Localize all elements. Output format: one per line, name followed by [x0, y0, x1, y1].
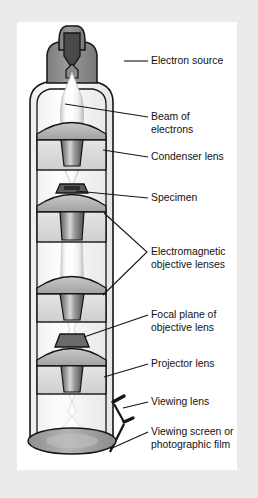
tem-diagram-figure: Electron sourceBeam ofelectronsCondenser… [0, 0, 258, 498]
focal-plane-aperture [55, 334, 89, 347]
label-line: Projector lens [151, 358, 215, 369]
tem-diagram-canvas: Electron sourceBeam ofelectronsCondenser… [0, 0, 258, 498]
label-line: Beam of [151, 111, 190, 122]
label-line: Focal plane of [151, 309, 216, 320]
objective-upper-bore [60, 212, 84, 240]
viewing-screen [28, 428, 116, 454]
label-specimen: Specimen [151, 192, 197, 203]
label-line: Viewing lens [151, 396, 209, 407]
objective-lens-upper [37, 195, 106, 243]
objective-lower-bore [60, 294, 84, 320]
label-line: Electron source [151, 55, 223, 66]
label-line: objective lenses [151, 259, 225, 270]
focal-plane [55, 334, 89, 347]
projector-lens [37, 349, 106, 395]
label-projector-lens: Projector lens [151, 358, 215, 369]
label-viewing-lens: Viewing lens [151, 396, 209, 407]
viewing-screen-illuminated-area [46, 434, 98, 449]
label-line: Specimen [151, 192, 197, 203]
condenser-lens [37, 123, 106, 171]
specimen-grid [64, 186, 80, 190]
label-line: Viewing screen or [151, 426, 234, 437]
condenser-lens-bore [61, 140, 83, 166]
label-condenser-lens: Condenser lens [151, 151, 224, 162]
label-line: objective lens [151, 322, 214, 333]
label-line: electrons [151, 124, 193, 135]
label-line: photographic film [151, 439, 230, 450]
label-line: Condenser lens [151, 151, 224, 162]
objective-lens-lower [37, 277, 106, 323]
projector-lens-bore [61, 366, 83, 392]
label-electron-source: Electron source [151, 55, 223, 66]
label-line: Electromagnetic [151, 246, 226, 257]
